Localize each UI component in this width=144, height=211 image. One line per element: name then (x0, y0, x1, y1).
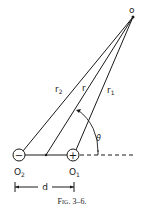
theta-label: θ (96, 134, 101, 143)
d-label: d (42, 182, 48, 192)
negative-sign: − (15, 150, 23, 161)
theta-arrowhead (76, 109, 81, 113)
label-o2: O2 (14, 167, 25, 178)
label-r1: r1 (107, 85, 115, 96)
line-r (46, 17, 133, 155)
line-r2 (23, 17, 133, 151)
label-r2: r2 (55, 84, 63, 95)
field-point (132, 16, 135, 19)
figure-caption: Fig. 3–6. (58, 197, 87, 206)
positive-sign: + (69, 150, 77, 161)
label-o1: O1 (69, 167, 80, 178)
center-point (45, 154, 47, 156)
d-arrow-right (70, 186, 74, 189)
field-point-label: o (129, 5, 135, 15)
dipole-diagram: o − + O2 O1 r2 r r1 θ d Fig. 3–6. (0, 0, 144, 211)
label-r: r (82, 83, 86, 93)
d-arrow-left (15, 186, 19, 189)
theta-arc (78, 110, 98, 152)
